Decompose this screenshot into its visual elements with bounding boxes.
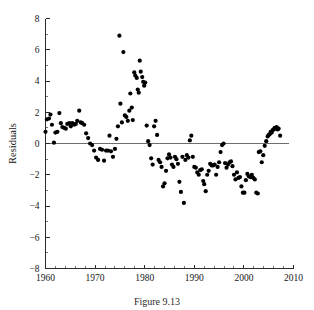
data-point [176,162,180,166]
data-point [100,148,104,152]
data-point [126,119,130,123]
y-tick-label: −4 [29,201,39,211]
data-point [242,191,246,195]
y-tick-label: 4 [35,76,40,86]
data-point [155,133,159,137]
data-point [168,155,172,159]
data-point [186,155,190,159]
y-tick-label: 8 [35,14,40,24]
y-tick-label: 6 [35,45,40,55]
data-point [43,130,47,134]
data-point [256,191,260,195]
data-point [64,127,68,131]
data-point [113,147,117,151]
data-point [194,166,198,170]
data-point [207,169,211,173]
data-point [191,155,195,159]
data-point [111,155,115,159]
data-point [146,139,150,143]
data-point [77,109,81,113]
x-axis-ticks [46,265,294,269]
data-point [229,159,233,163]
data-point [118,102,122,106]
data-point [139,70,143,74]
figure-caption: Figure 9.13 [0,296,314,308]
data-point [109,149,113,153]
data-point [145,123,149,127]
data-point [131,118,135,122]
data-point [96,158,100,162]
data-point [258,149,262,153]
y-tick-label: 2 [35,108,40,118]
data-point [164,169,168,173]
y-axis-ticks [46,19,50,269]
data-point [107,134,111,138]
x-tick-label: 1960 [36,273,55,283]
data-point [217,160,221,164]
data-point [159,165,163,169]
data-point [137,91,141,95]
data-point [182,201,186,205]
x-tick-label: 1980 [135,273,154,283]
x-axis-tick-labels: 196019701980199020002010 [36,273,303,283]
data-point [180,155,184,159]
data-point [263,144,267,148]
data-point [128,91,132,95]
data-point [239,184,243,188]
data-point [151,162,155,166]
data-point [149,156,153,160]
y-tick-label: −2 [29,170,39,180]
data-point [221,141,225,145]
data-point [57,111,61,115]
data-point [188,138,192,142]
y-axis-title: Residuals [7,123,18,164]
data-point [124,115,128,119]
data-point [189,134,193,138]
y-tick-label: −6 [29,233,39,243]
x-tick-label: 1970 [86,273,105,283]
data-point [86,136,90,140]
data-point [59,121,63,125]
data-point [253,177,257,181]
data-point [177,180,181,184]
y-tick-label: 0 [35,139,40,149]
data-point [238,175,242,179]
data-point [47,116,51,120]
data-point [148,143,152,147]
data-point [261,153,265,157]
data-point [235,170,239,174]
data-point [114,137,118,141]
data-point [162,181,166,185]
data-point [277,127,281,131]
figure-container: 86420−2−4−6−8 196019701980199020002010 R… [0,0,314,310]
data-point [174,157,178,161]
scatter-points [43,34,282,205]
data-point [102,159,106,163]
data-point [135,76,139,80]
data-point [179,190,183,194]
data-point [197,173,201,177]
data-point [260,160,264,164]
data-point [152,124,156,128]
data-point [200,167,204,171]
data-point [92,148,96,152]
data-point [90,143,94,147]
data-point [214,173,218,177]
data-point [244,178,248,182]
data-point [204,189,208,193]
data-point [50,123,54,127]
data-point [120,120,124,124]
data-point [264,139,268,143]
data-point [218,150,222,154]
data-point [117,34,121,38]
residuals-scatter-plot: 86420−2−4−6−8 196019701980199020002010 R… [0,0,314,310]
data-point [205,173,209,177]
x-tick-label: 1990 [185,273,204,283]
data-point [154,119,158,123]
data-point [82,123,86,127]
x-tick-label: 2000 [234,273,253,283]
data-point [278,134,282,138]
data-point [130,105,134,109]
x-tick-label: 2010 [284,273,303,283]
data-point [138,59,142,63]
